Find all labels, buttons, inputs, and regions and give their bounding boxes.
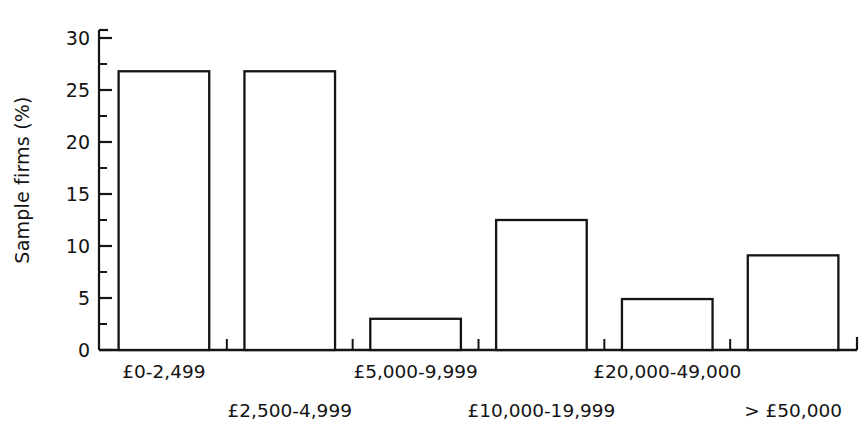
chart-figure: Sample firms (%) 051015202530 £0-2,499£2… [0, 0, 867, 444]
y-axis-title: Sample firms (%) [0, 0, 44, 360]
x-tick-label: £20,000-49,000 [593, 363, 741, 382]
bar[interactable] [119, 71, 210, 350]
x-tick-label: £10,000-19,999 [467, 402, 615, 421]
plot-area: 051015202530 [44, 18, 867, 363]
x-tick-label: > £50,000 [744, 402, 842, 421]
bar[interactable] [244, 71, 335, 350]
bar[interactable] [622, 299, 713, 350]
bar[interactable] [748, 255, 839, 350]
x-tick-label: £2,500-4,999 [228, 402, 352, 421]
x-tick-label: £5,000-9,999 [353, 363, 477, 382]
bar[interactable] [496, 220, 587, 350]
x-tick-label: £0-2,499 [122, 363, 205, 382]
y-axis-title-text: Sample firms (%) [11, 96, 33, 263]
chart-canvas [44, 18, 867, 363]
bar[interactable] [370, 319, 461, 350]
